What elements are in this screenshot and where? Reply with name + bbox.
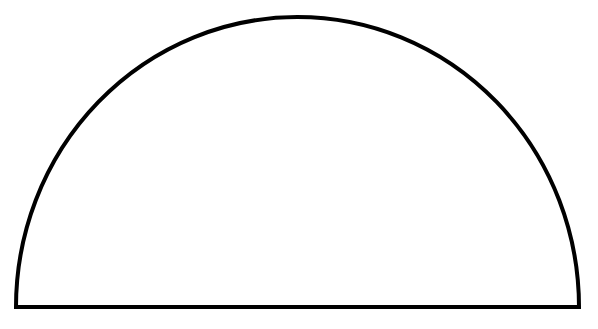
semicircle-diagram — [0, 0, 598, 329]
semicircle-outline — [16, 17, 579, 307]
